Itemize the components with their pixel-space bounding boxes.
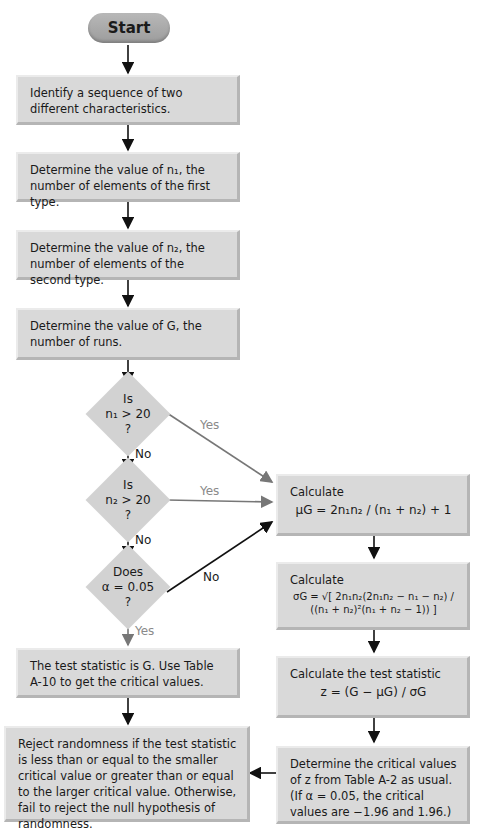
step-text: Determine the value of G, the number of … <box>30 319 202 349</box>
decision-line: ? <box>125 508 131 523</box>
yes-label-n2: Yes <box>200 484 219 498</box>
decision-line: α = 0.05 <box>102 580 154 595</box>
calc-title: Calculate <box>290 484 457 500</box>
calc-title: Calculate the test statistic <box>290 666 457 682</box>
no-label-n2: No <box>135 533 151 547</box>
critical-values-text: Determine the critical values of z from … <box>290 757 457 819</box>
decision-line: ? <box>125 422 131 437</box>
calc-sd-box: Calculate σG = √[ 2n₁n₂(2n₁n₂ − n₁ − n₂)… <box>276 562 470 630</box>
yes-label-alpha: Yes <box>135 624 154 638</box>
no-label-n1: No <box>135 447 151 461</box>
step-determine-g: Determine the value of G, the number of … <box>16 308 240 360</box>
calc-title: Calculate <box>290 572 457 588</box>
yes-label-n1: Yes <box>200 418 219 432</box>
step-text: Identify a sequence of two different cha… <box>30 86 183 116</box>
calc-z-box: Calculate the test statistic z = (G − μG… <box>276 656 470 718</box>
no-label-alpha: No <box>203 570 219 584</box>
decision-n1-gt-20: Isn₁ > 20? <box>86 372 170 456</box>
decision-line: ? <box>125 595 131 610</box>
test-statistic-text: The test statistic is G. Use Table A-10 … <box>30 659 214 689</box>
step-determine-n2: Determine the value of n₂, the number of… <box>16 230 240 280</box>
z-formula: z = (G − μG) / σG <box>290 684 457 700</box>
step-identify-sequence: Identify a sequence of two different cha… <box>16 75 240 125</box>
start-terminal: Start <box>88 13 170 43</box>
decision-line: n₂ > 20 <box>105 493 150 508</box>
decision-line: Does <box>113 565 143 580</box>
step-determine-n1: Determine the value of n₁, the number of… <box>16 152 240 202</box>
reject-decision-text: Reject randomness if the test statistic … <box>18 737 236 830</box>
test-statistic-g-box: The test statistic is G. Use Table A-10 … <box>16 648 240 698</box>
decision-line: n₁ > 20 <box>105 407 150 422</box>
calc-mean-box: Calculate μG = 2n₁n₂ / (n₁ + n₂) + 1 <box>276 474 470 536</box>
start-label: Start <box>108 19 151 37</box>
decision-line: Is <box>123 392 133 407</box>
reject-decision-box: Reject randomness if the test statistic … <box>4 726 250 822</box>
decision-alpha-005: Doesα = 0.05? <box>86 545 170 629</box>
decision-n2-gt-20: Isn₂ > 20? <box>86 458 170 542</box>
critical-values-box: Determine the critical values of z from … <box>276 746 470 824</box>
sd-formula: σG = √[ 2n₁n₂(2n₁n₂ − n₁ − n₂) / ((n₁ + … <box>290 590 457 616</box>
decision-line: Is <box>123 478 133 493</box>
mean-formula: μG = 2n₁n₂ / (n₁ + n₂) + 1 <box>290 502 457 518</box>
